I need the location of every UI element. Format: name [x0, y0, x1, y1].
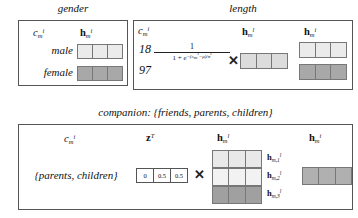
companion-z-header: zT: [146, 132, 154, 143]
companion-hl-vector-row3: [212, 186, 262, 204]
vector-cell: [331, 43, 346, 57]
vector-cell: [108, 45, 122, 58]
z-cell-2: 0.5: [171, 169, 187, 182]
companion-hi-header: hmi: [309, 132, 321, 143]
length-value-18: 18: [139, 42, 151, 57]
length-c-header: cmi: [138, 25, 149, 36]
gender-row-label-female: female: [19, 66, 73, 78]
length-hl-vector: [240, 53, 288, 69]
sigmoid-formula: 1 1 + e−(cmi−μ)/σi: [154, 42, 230, 62]
vector-cell: [93, 67, 108, 80]
vector-cell: [213, 151, 229, 167]
length-hi-vector-row1: [299, 42, 347, 58]
companion-hl-row3-label: hm,3l: [267, 188, 281, 198]
vector-cell: [303, 168, 319, 184]
companion-panel: cmi zT hml hmi {parents, children} 0 0.5…: [18, 124, 353, 210]
companion-multiply-icon: ✕: [194, 167, 205, 182]
length-value-97: 97: [139, 63, 151, 78]
vector-cell: [272, 54, 287, 68]
gender-row-label-male: male: [21, 44, 73, 56]
vector-cell: [246, 151, 261, 167]
gender-panel-title: gender: [18, 2, 128, 14]
vector-cell: [316, 43, 332, 57]
vector-cell: [108, 67, 122, 80]
vector-cell: [241, 54, 257, 68]
companion-hi-vector: [302, 167, 352, 185]
vector-cell: [331, 65, 346, 79]
vector-cell: [213, 169, 229, 185]
length-panel-title: length: [133, 2, 353, 14]
vector-cell: [229, 187, 245, 203]
companion-hl-row2-label: hm,2l: [267, 170, 281, 180]
companion-hl-vector-row2: [212, 168, 262, 186]
companion-hl-row1-label: hm,1l: [267, 152, 281, 162]
vector-cell: [300, 43, 316, 57]
formula-denominator: 1 + e−(cmi−μ)/σi: [154, 54, 230, 62]
z-cell-1: 0.5: [154, 169, 171, 182]
vector-cell: [78, 67, 93, 80]
gender-c-header: cmi: [33, 27, 44, 38]
gender-vector-female: [77, 66, 123, 81]
gender-h-header: hmi: [80, 27, 92, 38]
length-hi-header: hmi: [304, 26, 316, 37]
z-cell-0: 0: [137, 169, 154, 182]
vector-cell: [246, 187, 261, 203]
vector-cell: [229, 151, 245, 167]
vector-cell: [300, 65, 316, 79]
vector-cell: [319, 168, 335, 184]
companion-row-label: {parents, children}: [21, 169, 131, 181]
gender-panel: cmi hmi male female: [18, 20, 128, 86]
companion-hl-vector-row1: [212, 150, 262, 168]
companion-c-header: cmi: [64, 133, 75, 144]
vector-cell: [229, 169, 245, 185]
companion-hl-header: hml: [217, 132, 229, 143]
vector-cell: [93, 45, 108, 58]
vector-cell: [257, 54, 273, 68]
length-hi-vector-row2: [299, 64, 347, 80]
vector-cell: [336, 168, 351, 184]
vector-cell: [78, 45, 93, 58]
vector-cell: [246, 169, 261, 185]
vector-cell: [213, 187, 229, 203]
length-panel: cmi hml hmi 18 97 1 1 + e−(cmi−μ)/σi ✕: [133, 20, 353, 90]
gender-vector-male: [77, 44, 123, 59]
companion-panel-title: companion: {friends, parents, children}: [18, 106, 353, 118]
length-hl-header: hml: [242, 26, 254, 37]
companion-z-vector: 0 0.5 0.5: [136, 168, 188, 183]
length-multiply-icon: ✕: [228, 53, 239, 68]
vector-cell: [316, 65, 332, 79]
formula-numerator: 1: [154, 42, 230, 51]
